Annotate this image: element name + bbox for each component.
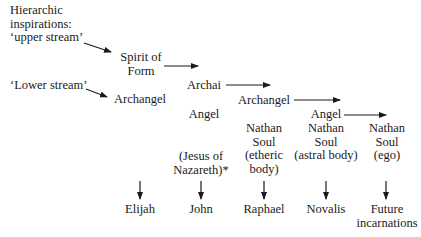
node-line: Form [120, 65, 161, 79]
lower-stream-label: ‘Lower stream’ [10, 79, 87, 93]
node-jesus-of-nazareth: (Jesus of Nazareth)* [173, 150, 229, 177]
node-line: Nathan [245, 122, 283, 136]
node-nathan-ego: Nathan Soul (ego) [369, 122, 405, 163]
node-archangel-mid: Archangel [238, 94, 290, 108]
node-line: Nathan [369, 122, 405, 136]
node-line: incarnations [356, 217, 417, 231]
incarnation-future: Future incarnations [356, 203, 417, 230]
node-line: Soul [245, 136, 283, 150]
node-line: (etheric [245, 149, 283, 163]
node-archangel-left: Archangel [114, 93, 166, 107]
node-nathan-etheric: Nathan Soul (etheric body) [245, 122, 283, 176]
node-spirit-of-form: Spirit of Form [120, 51, 161, 78]
node-archai: Archai [187, 79, 221, 93]
arrow-upper-to-spirit [84, 43, 111, 52]
node-angel-right: Angel [311, 108, 342, 122]
node-line: (astral body) [294, 149, 358, 163]
node-line: Soul [294, 136, 358, 150]
node-line: Nathan [294, 122, 358, 136]
node-line: (Jesus of [173, 150, 229, 164]
node-line: (ego) [369, 149, 405, 163]
node-line: Soul [369, 136, 405, 150]
node-line: body) [245, 163, 283, 177]
incarnation-novalis: Novalis [307, 203, 346, 217]
header-line: inspirations: [10, 18, 83, 32]
arrow-lower-to-archangel [86, 89, 107, 97]
node-angel-left: Angel [189, 108, 220, 122]
node-line: Nazareth)* [173, 164, 229, 178]
incarnation-raphael: Raphael [244, 203, 285, 217]
node-nathan-astral: Nathan Soul (astral body) [294, 122, 358, 163]
node-line: Spirit of [120, 51, 161, 65]
header-line: ‘upper stream’ [10, 31, 83, 45]
header-line: Hierarchic [10, 4, 83, 18]
incarnation-john: John [189, 203, 213, 217]
header-label: Hierarchic inspirations: ‘upper stream’ [10, 4, 83, 45]
incarnation-elijah: Elijah [125, 203, 155, 217]
node-line: Future [356, 203, 417, 217]
